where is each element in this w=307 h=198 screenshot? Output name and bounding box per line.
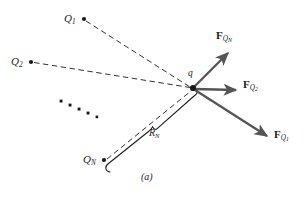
force-label-fq2: FQ2 (243, 79, 258, 93)
figure-caption-text: (a) (141, 171, 153, 182)
force-vector-fq2 (195, 89, 236, 90)
dashed-line-qn-to-q (107, 91, 191, 159)
ellipsis-dot (87, 112, 90, 115)
test-charge-label: q (188, 69, 193, 79)
force-subscript-fq2: 2 (255, 86, 258, 92)
ellipsis-dot (78, 108, 81, 111)
test-charge-symbol: q (188, 68, 193, 78)
distance-subscript-n: N (155, 132, 159, 139)
brace-lower-arm (106, 127, 153, 172)
charge-dots (29, 17, 106, 162)
force-vectors (194, 53, 267, 136)
force-subscript-fq1: 1 (286, 136, 289, 142)
ellipsis-dot (96, 116, 99, 119)
charge-dot-q2 (29, 60, 33, 64)
ellipsis-dot (60, 100, 63, 103)
figure-container: Q1 Q2 QN q RN FQN FQ2 FQ1 (a) (0, 0, 307, 198)
force-vector-fq1 (195, 90, 267, 136)
force-subscript-fqn: N (228, 37, 232, 43)
ellipsis-dot (69, 104, 72, 107)
charge-label-q2: Q2 (11, 56, 23, 69)
dashed-connector-lines (34, 21, 191, 159)
charge-dot-qn (102, 158, 106, 162)
charge-label-q1: Q1 (64, 13, 76, 26)
force-label-fq1: FQ1 (274, 129, 289, 143)
dashed-line-q1-to-q (86, 21, 190, 87)
charge-subscript-q1: 1 (72, 18, 76, 26)
dashed-line-q2-to-q (34, 63, 190, 88)
figure-canvas (0, 0, 307, 198)
ellipsis-dots (60, 100, 99, 119)
charge-subscript-q2: 2 (19, 61, 23, 69)
brace-upper-arm (153, 89, 198, 130)
charge-dot-q1 (82, 17, 86, 21)
figure-caption: (a) (141, 172, 153, 182)
charge-subscript-qn: N (91, 159, 96, 167)
charge-label-qn: QN (83, 154, 96, 167)
force-vector-fqn (194, 53, 228, 87)
force-label-fqn: FQN (216, 30, 232, 44)
test-charge-dot (190, 85, 196, 91)
distance-label-rn: RN (149, 128, 160, 139)
